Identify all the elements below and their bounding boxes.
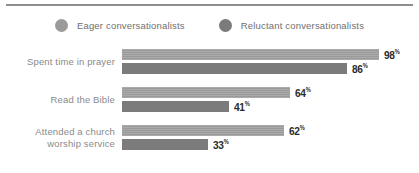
category-label-line: Spent time in prayer	[0, 56, 115, 68]
bar-value-eager-bible: 64%	[295, 86, 311, 99]
bar-value-number: 86	[352, 63, 363, 75]
bar-chart: Eager conversationalists Reluctant conve…	[0, 0, 419, 173]
percent-symbol: %	[245, 100, 250, 107]
bar-eager-church	[122, 125, 284, 136]
bar-value-number: 41	[234, 101, 245, 113]
bar-pair: 62% 33%	[122, 125, 419, 151]
category-label-prayer: Spent time in prayer	[0, 56, 122, 68]
percent-symbol: %	[305, 86, 310, 93]
bar-value-eager-prayer: 98%	[384, 48, 400, 61]
bar-reluctant-church	[122, 139, 208, 150]
category-label-line: worship service	[0, 138, 115, 150]
legend-item-reluctant: Reluctant conversationalists	[219, 19, 364, 32]
bar-pair: 64% 41%	[122, 87, 419, 113]
bar-row-reluctant: 33%	[122, 139, 419, 150]
bar-pair: 98% 86%	[122, 49, 419, 75]
category-label-line: Read the Bible	[0, 94, 115, 106]
bar-row-eager: 98%	[122, 49, 419, 60]
bar-reluctant-prayer	[122, 63, 347, 74]
bar-reluctant-bible	[122, 101, 229, 112]
circle-marker-icon	[55, 19, 68, 32]
bar-value-reluctant-church: 33%	[213, 138, 229, 151]
bar-group-church: Attended a church worship service 62% 33…	[0, 122, 419, 154]
bar-row-eager: 62%	[122, 125, 419, 136]
bar-value-reluctant-prayer: 86%	[352, 62, 368, 75]
bar-row-reluctant: 41%	[122, 101, 419, 112]
legend-label-reluctant: Reluctant conversationalists	[241, 20, 364, 31]
bar-value-number: 64	[295, 87, 306, 99]
bar-eager-prayer	[122, 49, 379, 60]
legend-item-eager: Eager conversationalists	[55, 19, 185, 32]
percent-symbol: %	[224, 138, 229, 145]
percent-symbol: %	[394, 48, 399, 55]
bar-value-reluctant-bible: 41%	[234, 100, 250, 113]
bar-value-number: 98	[384, 49, 395, 61]
bar-row-reluctant: 86%	[122, 63, 419, 74]
legend-label-eager: Eager conversationalists	[77, 20, 185, 31]
percent-symbol: %	[300, 124, 305, 131]
top-divider-rule	[6, 4, 413, 6]
bar-eager-bible	[122, 87, 290, 98]
percent-symbol: %	[363, 62, 368, 69]
chart-legend: Eager conversationalists Reluctant conve…	[0, 14, 419, 36]
category-label-line: Attended a church	[0, 126, 115, 138]
circle-marker-icon	[219, 19, 232, 32]
bar-row-eager: 64%	[122, 87, 419, 98]
category-label-church: Attended a church worship service	[0, 126, 122, 150]
bar-group-bible: Read the Bible 64% 41%	[0, 84, 419, 116]
bar-group-prayer: Spent time in prayer 98% 86%	[0, 46, 419, 78]
category-label-bible: Read the Bible	[0, 94, 122, 106]
plot-area: Spent time in prayer 98% 86%	[0, 46, 419, 158]
bar-value-eager-church: 62%	[289, 124, 305, 137]
